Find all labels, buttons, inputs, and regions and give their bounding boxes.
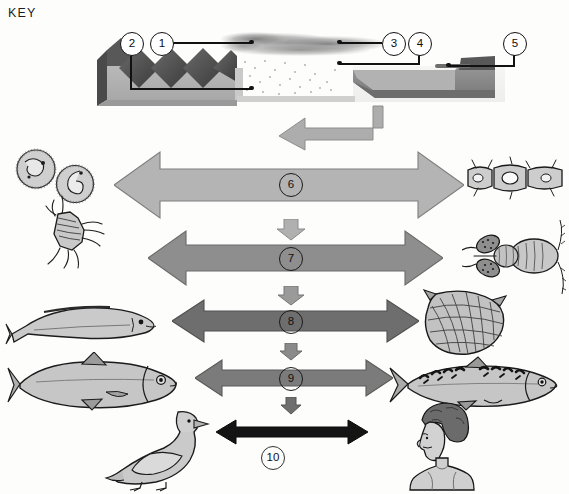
callout-3[interactable]: 3 bbox=[382, 32, 406, 56]
callout-2-number: 2 bbox=[129, 38, 135, 50]
callout-5[interactable]: 5 bbox=[503, 32, 527, 56]
human-illustration bbox=[398, 400, 486, 492]
level9-to-level10-arrow bbox=[280, 397, 302, 415]
rain-fallout bbox=[244, 60, 336, 95]
leader-dot-3 bbox=[337, 40, 342, 45]
callout-1[interactable]: 1 bbox=[150, 32, 174, 56]
copepod-left-illustration bbox=[24, 192, 110, 270]
callout-4[interactable]: 4 bbox=[408, 32, 432, 56]
band-arrow-10[interactable] bbox=[216, 418, 368, 446]
seagull-illustration bbox=[94, 398, 210, 492]
leader-line-4-horizontal bbox=[340, 63, 419, 65]
callout-4-number: 4 bbox=[417, 38, 423, 50]
leader-dot-2 bbox=[249, 86, 254, 91]
source-to-level6-elbow-arrow bbox=[265, 104, 385, 152]
band-number-9-value: 9 bbox=[288, 373, 294, 385]
leader-line-2-vertical bbox=[130, 54, 132, 89]
leader-dot-4 bbox=[337, 61, 342, 66]
smoke-plume bbox=[221, 32, 387, 56]
band-number-10-value: 10 bbox=[267, 452, 280, 464]
leader-dot-1 bbox=[249, 40, 254, 45]
sand-eel-illustration bbox=[4, 298, 162, 350]
leader-line-3 bbox=[340, 42, 382, 44]
band-number-7[interactable]: 7 bbox=[279, 247, 303, 271]
callout-2[interactable]: 2 bbox=[120, 32, 144, 56]
band-number-10[interactable]: 10 bbox=[261, 446, 285, 470]
leader-line-1 bbox=[172, 42, 252, 44]
band-number-8-value: 8 bbox=[288, 316, 294, 328]
key-label: KEY bbox=[8, 6, 37, 20]
copepod-with-eggsacs-illustration bbox=[462, 220, 566, 296]
diatom-chain-illustration bbox=[466, 156, 566, 200]
callout-3-number: 3 bbox=[391, 38, 397, 50]
diagram-canvas: KEY bbox=[0, 0, 569, 494]
band-number-6[interactable]: 6 bbox=[279, 173, 303, 197]
band-number-6-value: 6 bbox=[288, 179, 294, 191]
leader-line-2-horizontal bbox=[130, 88, 252, 90]
callout-5-number: 5 bbox=[512, 38, 518, 50]
leader-dot-5 bbox=[446, 63, 451, 68]
callout-1-number: 1 bbox=[159, 38, 165, 50]
band-number-8[interactable]: 8 bbox=[279, 310, 303, 334]
band-number-9[interactable]: 9 bbox=[279, 367, 303, 391]
leader-line-5-horizontal bbox=[449, 65, 514, 67]
scallop-illustration bbox=[416, 286, 510, 360]
band-number-7-value: 7 bbox=[288, 253, 294, 265]
